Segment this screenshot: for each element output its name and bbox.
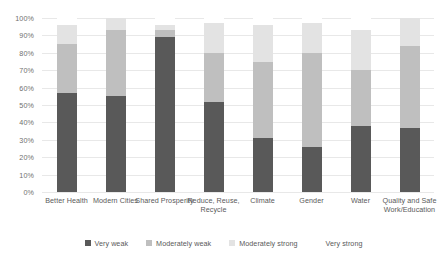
legend-swatch-icon: [316, 240, 322, 246]
bar-stack: [253, 18, 273, 192]
bar-segment[interactable]: [204, 23, 224, 53]
bar-group[interactable]: [351, 18, 371, 192]
bar-segment[interactable]: [302, 147, 322, 192]
legend-swatch-icon: [229, 240, 235, 246]
bar-segment[interactable]: [106, 96, 126, 192]
y-axis: 0%10%20%30%40%50%60%70%80%90%100%: [0, 18, 38, 192]
y-axis-tick-label: 10%: [19, 170, 34, 179]
y-axis-tick-label: 90%: [19, 31, 34, 40]
bar-stack: [106, 18, 126, 192]
legend-item-label: Very weak: [95, 239, 129, 248]
x-axis: Better HealthModern CitiesShared Prosper…: [42, 196, 434, 230]
bar-segment[interactable]: [351, 70, 371, 126]
y-axis-tick-label: 100%: [15, 14, 34, 23]
bar-group[interactable]: [204, 18, 224, 192]
y-axis-tick-label: 0%: [23, 188, 34, 197]
bar-group[interactable]: [400, 18, 420, 192]
bar-segment[interactable]: [400, 128, 420, 192]
bar-stack: [400, 18, 420, 192]
bar-group[interactable]: [302, 18, 322, 192]
legend-item[interactable]: Very weak: [85, 239, 129, 248]
stacked-bar-chart: 0%10%20%30%40%50%60%70%80%90%100% Better…: [0, 0, 447, 258]
bar-segment[interactable]: [155, 30, 175, 37]
y-axis-tick-label: 80%: [19, 48, 34, 57]
bar-stack: [155, 18, 175, 192]
plot-area: [42, 18, 434, 192]
bar-segment[interactable]: [253, 18, 273, 25]
legend-item-label: Moderately strong: [239, 239, 297, 248]
bar-segment[interactable]: [57, 25, 77, 44]
bar-segment[interactable]: [302, 23, 322, 53]
bar-stack: [351, 18, 371, 192]
bar-segment[interactable]: [155, 18, 175, 25]
bar-segment[interactable]: [253, 25, 273, 62]
legend-item[interactable]: Moderately weak: [146, 239, 211, 248]
chart-legend: Very weakModerately weakModerately stron…: [0, 235, 447, 251]
y-axis-tick-label: 70%: [19, 66, 34, 75]
y-axis-tick-label: 50%: [19, 101, 34, 110]
legend-item-label: Very strong: [326, 239, 363, 248]
x-axis-tick-label: Quality and Safe Work/Education: [378, 196, 441, 214]
bar-segment[interactable]: [400, 18, 420, 46]
bar-segment[interactable]: [253, 62, 273, 139]
bar-segment[interactable]: [351, 126, 371, 192]
bar-segment[interactable]: [351, 30, 371, 70]
y-axis-tick-label: 40%: [19, 118, 34, 127]
bar-segment[interactable]: [57, 44, 77, 93]
bar-segment[interactable]: [302, 53, 322, 147]
bars-layer: [42, 18, 434, 192]
y-axis-tick-label: 30%: [19, 135, 34, 144]
bar-group[interactable]: [106, 18, 126, 192]
y-axis-tick-label: 60%: [19, 83, 34, 92]
legend-item[interactable]: Moderately strong: [229, 239, 297, 248]
bar-segment[interactable]: [253, 138, 273, 192]
bar-stack: [302, 18, 322, 192]
bar-stack: [57, 18, 77, 192]
bar-segment[interactable]: [204, 102, 224, 192]
bar-stack: [204, 18, 224, 192]
bar-segment[interactable]: [106, 18, 126, 30]
gridline: [42, 192, 434, 193]
bar-segment[interactable]: [155, 25, 175, 30]
bar-group[interactable]: [57, 18, 77, 192]
legend-swatch-icon: [146, 240, 152, 246]
bar-segment[interactable]: [106, 30, 126, 96]
bar-segment[interactable]: [155, 37, 175, 192]
bar-segment[interactable]: [204, 18, 224, 23]
legend-item[interactable]: Very strong: [316, 239, 363, 248]
y-axis-tick-label: 20%: [19, 153, 34, 162]
bar-segment[interactable]: [204, 53, 224, 102]
bar-segment[interactable]: [302, 18, 322, 23]
bar-group[interactable]: [155, 18, 175, 192]
bar-group[interactable]: [253, 18, 273, 192]
legend-item-label: Moderately weak: [156, 239, 211, 248]
legend-swatch-icon: [85, 240, 91, 246]
bar-segment[interactable]: [57, 93, 77, 192]
bar-segment[interactable]: [351, 18, 371, 30]
bar-segment[interactable]: [400, 46, 420, 128]
bar-segment[interactable]: [57, 18, 77, 25]
